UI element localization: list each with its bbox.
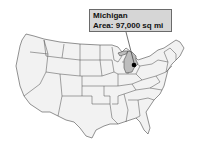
info-callout: Michigan Area: 97,000 sq mi bbox=[89, 9, 172, 32]
location-dot-icon[interactable] bbox=[132, 63, 137, 68]
callout-detail: Area: 97,000 sq mi bbox=[93, 21, 171, 31]
callout-title: Michigan bbox=[93, 11, 171, 21]
